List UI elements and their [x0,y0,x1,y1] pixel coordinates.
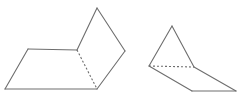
diagram-svg [0,0,240,105]
solid-edge [194,67,236,91]
solid-edge [172,26,194,67]
solid-edge [149,66,192,91]
diagram-canvas [0,0,240,105]
dashed-fold-edge [77,50,97,89]
solid-edge [5,49,28,89]
solid-edge [97,8,125,51]
dashed-fold-edge [149,66,194,67]
solid-edge [97,51,125,89]
folded-paper-left [5,8,125,89]
solid-edge [28,49,77,50]
folded-paper-right [149,26,236,91]
solid-edge [77,8,97,50]
solid-edge [149,26,172,66]
